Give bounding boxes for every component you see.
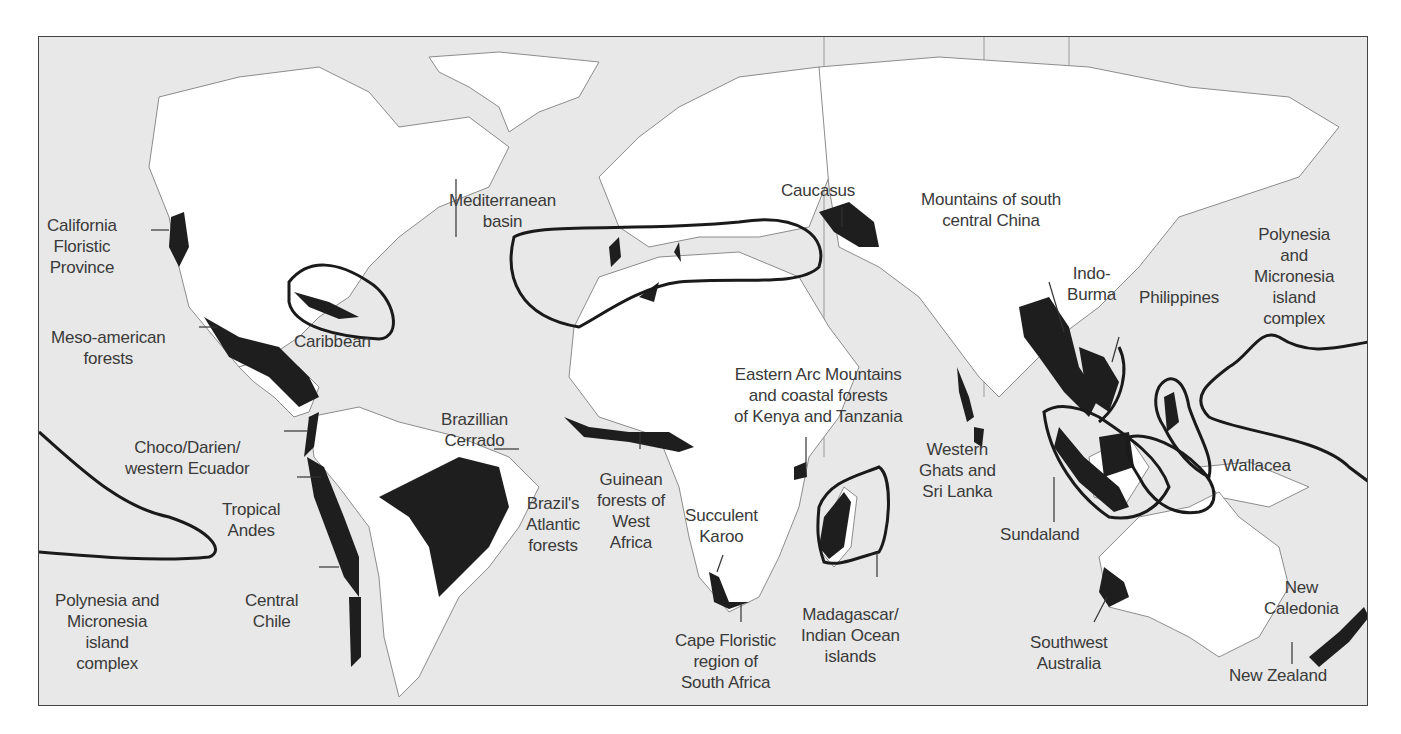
label-brazil-atlantic: Brazil'sAtlanticforests xyxy=(526,493,580,556)
label-polynesia-west: Polynesia andMicronesiaislandcomplex xyxy=(55,590,159,674)
label-new-caledonia: NewCaledonia xyxy=(1264,577,1339,619)
label-california: CaliforniaFloristicProvince xyxy=(47,215,117,278)
label-caribbean: Caribbean xyxy=(294,331,371,352)
label-indo-burma: Indo-Burma xyxy=(1067,263,1116,305)
world-map xyxy=(39,37,1368,706)
label-brazil-cerrado: BrazillianCerrado xyxy=(441,409,508,451)
label-madagascar: Madagascar/Indian Oceanislands xyxy=(801,604,900,667)
label-eastern-arc: Eastern Arc Mountainsand coastal forests… xyxy=(734,364,902,427)
western-ghats-hotspot xyxy=(957,367,984,447)
label-new-zealand: New Zealand xyxy=(1229,665,1327,686)
label-polynesia-east: PolynesiaandMicronesiaislandcomplex xyxy=(1254,224,1334,329)
europe-landmass xyxy=(599,67,839,247)
philippines-hotspot xyxy=(1164,392,1179,432)
label-cape: Cape Floristicregion ofSouth Africa xyxy=(675,630,776,693)
label-sundaland: Sundaland xyxy=(1000,524,1080,545)
central-chile-hotspot xyxy=(349,597,361,667)
label-wallacea: Wallacea xyxy=(1223,455,1291,476)
page-top-margin xyxy=(0,0,1401,10)
label-mediterranean: Mediterraneanbasin xyxy=(449,190,556,232)
leader-line xyxy=(1112,337,1119,362)
label-south-china: Mountains of southcentral China xyxy=(921,189,1061,231)
label-caucasus: Caucasus xyxy=(781,180,855,201)
label-succulent-karoo: SucculentKaroo xyxy=(685,505,758,547)
world-map-frame: CaliforniaFloristicProvince Meso-america… xyxy=(38,36,1368,706)
label-western-ghats: WesternGhats andSri Lanka xyxy=(919,439,996,502)
label-central-chile: CentralChile xyxy=(245,590,298,632)
label-sw-australia: SouthwestAustralia xyxy=(1030,632,1108,674)
label-tropical-andes: TropicalAndes xyxy=(222,499,280,541)
label-guinean: Guineanforests ofWestAfrica xyxy=(597,469,665,553)
leader-line xyxy=(1094,597,1107,622)
label-philippines: Philippines xyxy=(1139,287,1219,308)
label-choco: Choco/Darien/western Ecuador xyxy=(125,437,250,479)
label-mesoamerica: Meso-americanforests xyxy=(51,327,166,369)
